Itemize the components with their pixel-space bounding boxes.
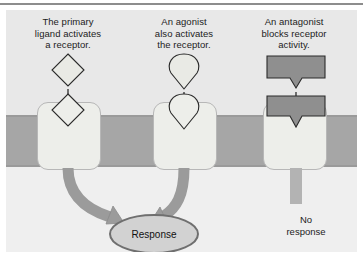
caption-line: activity. xyxy=(234,39,354,51)
caption-line: An antagonist xyxy=(234,16,354,28)
caption-antagonist: An antagonist blocks receptor activity. xyxy=(234,16,354,51)
caption-line: An agonist xyxy=(124,16,244,28)
caption-agonist: An agonist also activates the receptor. xyxy=(124,16,244,51)
no-response-line: No xyxy=(261,214,351,226)
no-response-label: No response xyxy=(261,214,351,237)
no-response-line: response xyxy=(261,226,351,238)
caption-line: also activates xyxy=(124,28,244,40)
receptor-body-primary xyxy=(37,102,101,170)
caption-line: the receptor. xyxy=(124,39,244,51)
caption-line: blocks receptor xyxy=(234,28,354,40)
receptor-body-antagonist xyxy=(263,102,327,170)
column-primary-ligand: The primary ligand activates a receptor. xyxy=(8,10,128,252)
receptor-body-agonist xyxy=(153,102,217,170)
caption-primary-ligand: The primary ligand activates a receptor. xyxy=(8,16,128,51)
response-label: Response xyxy=(106,229,202,240)
column-agonist: An agonist also activates the receptor. xyxy=(124,10,244,252)
figure-top-rule xyxy=(0,3,363,5)
figure-panel: The primary ligand activates a receptor.… xyxy=(6,10,357,252)
caption-line: ligand activates xyxy=(8,28,128,40)
caption-line: The primary xyxy=(8,16,128,28)
caption-line: a receptor. xyxy=(8,39,128,51)
receptor-pharmacology-diagram: The primary ligand activates a receptor.… xyxy=(0,0,363,260)
